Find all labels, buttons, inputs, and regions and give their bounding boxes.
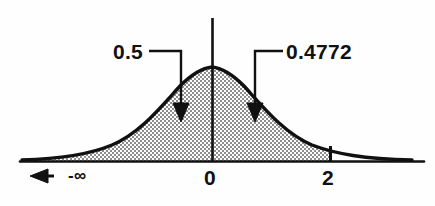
distribution-chart-canvas (0, 0, 435, 206)
label-negative-infinity: -∞ (68, 166, 86, 186)
axis-tick-label-zero: 0 (204, 166, 216, 190)
axis-tick-label-two: 2 (322, 166, 334, 190)
normal-distribution-figure: 0.5 0.4772 0 2 -∞ (0, 0, 435, 206)
shaded-area (22, 67, 412, 161)
leader-line-right (255, 51, 283, 105)
label-left-area: 0.5 (113, 40, 143, 64)
label-right-area: 0.4772 (286, 40, 352, 64)
neg-infinity-arrowhead (30, 169, 48, 183)
